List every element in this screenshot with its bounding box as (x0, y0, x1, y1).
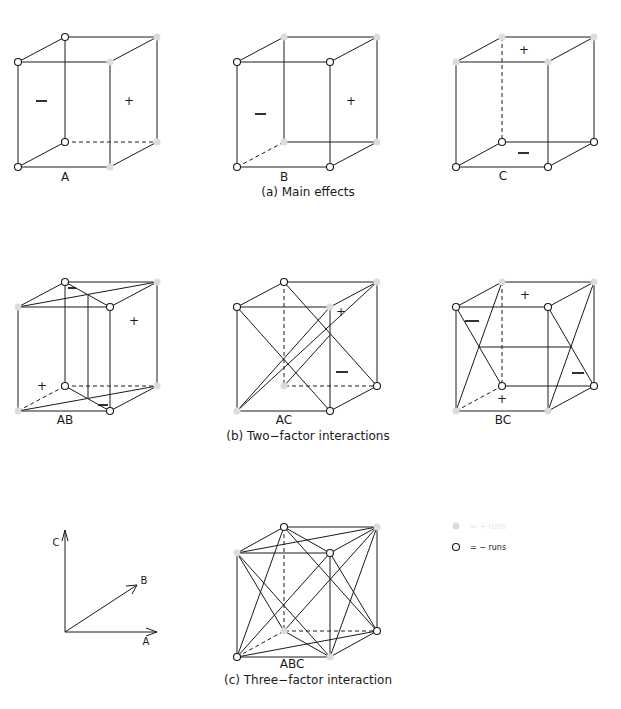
plus-sign: + (129, 314, 139, 328)
caption-main-effects: (a) Main effects (261, 185, 355, 199)
plus-sign: + (519, 43, 529, 57)
legend-plus-marker-icon (453, 523, 460, 530)
cube-label-b: B (280, 170, 288, 184)
axis-label-a: A (143, 636, 150, 647)
cube-b: + B (234, 34, 381, 185)
cube-ac: + AC (234, 279, 381, 428)
cube-label-ac: AC (276, 413, 292, 427)
plus-sign: + (497, 392, 507, 406)
cube-label-bc: BC (495, 413, 511, 427)
axis-label-b: B (141, 575, 148, 586)
plus-sign: + (346, 94, 356, 108)
cube-label-ab: AB (57, 413, 73, 427)
plus-sign: + (520, 288, 530, 302)
legend-plus-runs: = + runs (470, 522, 506, 531)
plus-sign: + (336, 305, 346, 319)
axis-b (65, 585, 137, 632)
legend-minus-runs: = − runs (470, 543, 506, 552)
legend: = + runs = − runs (453, 522, 507, 552)
axis-label-c: C (53, 537, 60, 548)
cube-label-abc: ABC (280, 657, 305, 671)
cube-ab: + + AB (15, 279, 161, 428)
axes-diagram: C B A (53, 530, 157, 647)
cube-c: + C (453, 34, 598, 184)
cube-label-c: C (499, 169, 507, 183)
cube-label-a: A (61, 170, 70, 184)
cube-bc: + + BC (453, 279, 598, 428)
legend-minus-marker-icon (453, 544, 460, 551)
caption-three-factor: (c) Three−factor interaction (224, 673, 392, 687)
caption-two-factor: (b) Two−factor interactions (226, 429, 389, 443)
cube-a: + A (15, 34, 161, 185)
plus-sign: + (124, 94, 134, 108)
cube-abc: ABC (234, 524, 381, 672)
plus-sign: + (37, 379, 47, 393)
factorial-design-figure: + A + B (a) Main effects + (0, 0, 621, 709)
